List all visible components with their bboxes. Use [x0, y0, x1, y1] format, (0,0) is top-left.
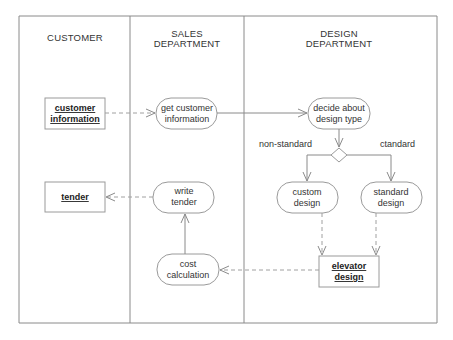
lane-header-design-line2: DEPARTMENT [306, 38, 373, 49]
guard-standard: ctandard [380, 139, 415, 149]
activity-label-line1: decide about [313, 103, 365, 113]
activity-decide-design-type: decide about design type [308, 98, 370, 129]
decision-diamond [331, 148, 347, 162]
activity-label-line2: tender [171, 197, 197, 207]
object-label-line1: elevator [332, 261, 367, 271]
object-customer-information: customer information [45, 98, 105, 129]
activity-label-line2: design [294, 198, 321, 208]
activity-label-line1: get customer [161, 103, 213, 113]
activity-label-line2: calculation [167, 270, 210, 280]
activity-standard-design: standard design [361, 182, 422, 213]
activity-label-line1: cost [180, 259, 197, 269]
object-elevator-design: elevator design [319, 256, 379, 287]
activity-cost-calculation: cost calculation [157, 254, 219, 285]
activity-get-customer-information: get customer information [156, 98, 217, 129]
object-label-line2: design [334, 272, 363, 282]
object-label-line1: customer [55, 103, 96, 113]
lane-header-customer: CUSTOMER [47, 32, 103, 43]
activity-label-line1: custom [292, 187, 321, 197]
activity-label-line1: write [173, 186, 193, 196]
object-label: tender [61, 192, 89, 202]
activity-label-line1: standard [373, 187, 408, 197]
activity-label-line2: design [378, 198, 405, 208]
lane-header-sales-line2: DEPARTMENT [154, 38, 221, 49]
activity-write-tender: write tender [153, 182, 214, 213]
object-label-line2: information [50, 114, 100, 124]
activity-custom-design: custom design [277, 182, 338, 213]
flow-diamond-to-custom [307, 155, 331, 181]
activity-diagram: CUSTOMER SALES DEPARTMENT DESIGN DEPARTM… [0, 0, 453, 340]
activity-label-line2: design type [316, 114, 362, 124]
activity-label-line2: information [165, 114, 210, 124]
object-tender: tender [45, 182, 105, 212]
flow-diamond-to-standard [347, 155, 391, 181]
guard-non-standard: non-standard [259, 139, 312, 149]
